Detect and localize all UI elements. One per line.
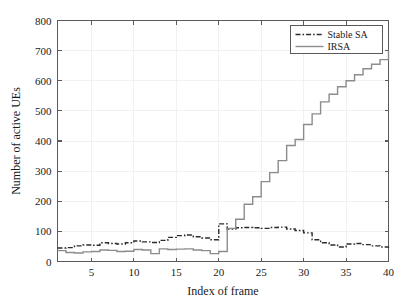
y-tick-label: 500 — [35, 105, 52, 117]
x-tick-label: 40 — [383, 266, 395, 278]
y-tick-label: 800 — [35, 15, 52, 27]
x-axis-title: Index of frame — [187, 284, 258, 298]
chart-legend[interactable]: Stable SAIRSA — [291, 26, 383, 54]
series-line-stable-sa — [58, 224, 389, 248]
y-tick-label: 600 — [35, 75, 52, 87]
y-tick-label: 300 — [35, 165, 52, 177]
y-tick-label: 700 — [35, 45, 52, 57]
legend-label: IRSA — [328, 41, 352, 52]
chart-canvas: 0100200300400500600700800510152025303540… — [0, 0, 404, 303]
x-tick-label: 10 — [128, 266, 140, 278]
y-axis-title: Number of active UEs — [9, 87, 23, 195]
y-tick-label: 100 — [35, 225, 52, 237]
y-tick-label: 400 — [35, 135, 52, 147]
gridlines-layer — [58, 21, 389, 262]
x-tick-label: 15 — [171, 266, 183, 278]
x-tick-label: 30 — [298, 266, 310, 278]
x-tick-label: 20 — [213, 266, 225, 278]
x-tick-label: 35 — [341, 266, 353, 278]
y-tick-label: 200 — [35, 195, 52, 207]
y-tick-label: 0 — [46, 256, 52, 268]
legend-label: Stable SA — [328, 29, 369, 40]
chart-figure: 0100200300400500600700800510152025303540… — [0, 0, 404, 303]
x-tick-label: 5 — [89, 266, 95, 278]
x-tick-label: 25 — [256, 266, 268, 278]
